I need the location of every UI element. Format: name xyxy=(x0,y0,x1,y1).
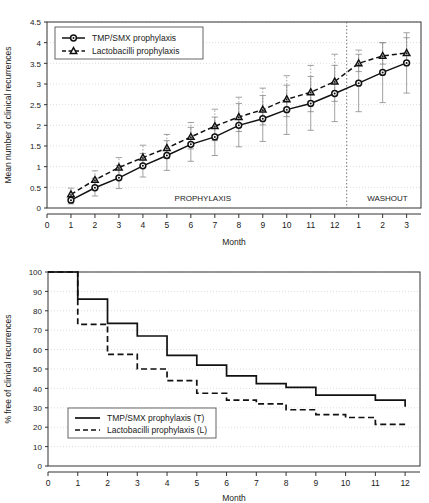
y-tick-label: 3 xyxy=(37,80,42,89)
plot-area-bottom: 01020304050607080901000123456789101112Mo… xyxy=(3,268,420,503)
y-tick-label: 2.5 xyxy=(30,101,42,110)
panel-annotation: WASHOUT xyxy=(367,194,408,203)
y-tick-label: 70 xyxy=(33,326,42,335)
y-tick-label: 2 xyxy=(37,122,42,131)
y-tick-label: 1.5 xyxy=(30,142,42,151)
y-tick-label: 4.5 xyxy=(30,18,42,27)
x-tick-label: 3 xyxy=(117,220,122,230)
marker-circle-dot xyxy=(166,155,168,157)
marker-circle-dot xyxy=(238,124,240,126)
legend-top: TMP/SMX prophylaxisLactobacilli prophyla… xyxy=(55,27,203,59)
chart-panel-percent-free: 01020304050607080901000123456789101112Mo… xyxy=(0,258,429,503)
legend-label-1: Lactobacilli prophylaxis xyxy=(92,46,179,56)
x-tick-label: 9 xyxy=(313,478,318,488)
y-axis-label: Mean number of clinical recurrences xyxy=(3,46,13,183)
y-tick-label: 0.5 xyxy=(30,184,42,193)
y-tick-label: 20 xyxy=(33,423,42,432)
x-tick-label: 10 xyxy=(282,220,292,230)
marker-circle-dot xyxy=(262,118,264,120)
legend-label-0: TMP/SMX prophylaxis xyxy=(92,33,176,43)
y-tick-label: 80 xyxy=(33,307,42,316)
x-tick-label: 12 xyxy=(330,220,340,230)
y-tick-label: 0 xyxy=(38,462,43,471)
x-tick-label: 5 xyxy=(194,478,199,488)
legend-label-0: TMP/SMX prophylaxis (T) xyxy=(107,413,204,423)
x-tick-label: 8 xyxy=(284,478,289,488)
x-tick-label: 8 xyxy=(236,220,241,230)
x-tick-label: 10 xyxy=(341,478,351,488)
marker-circle-dot xyxy=(382,71,384,73)
x-tick-label: 5 xyxy=(165,220,170,230)
mean-recurrences-svg: 00.511.522.533.544.50123456789101112123M… xyxy=(0,0,429,258)
marker-circle-dot xyxy=(406,62,408,64)
y-tick-label: 40 xyxy=(33,385,42,394)
x-tick-label: 2 xyxy=(380,220,385,230)
x-axis-label: Month xyxy=(222,493,246,503)
panel-annotation: PROPHYLAXIS xyxy=(175,194,231,203)
y-tick-label: 50 xyxy=(33,365,42,374)
x-tick-label: 9 xyxy=(260,220,265,230)
legend-marker-circle-dot xyxy=(73,37,75,39)
marker-circle-dot xyxy=(310,102,312,104)
y-tick-label: 4 xyxy=(37,39,42,48)
marker-circle-dot xyxy=(94,187,96,189)
legend-bottom: TMP/SMX prophylaxis (T)Lactobacilli prop… xyxy=(68,408,216,438)
y-tick-label: 10 xyxy=(33,443,42,452)
step-curve-lactobacilli xyxy=(48,272,405,424)
x-tick-label: 1 xyxy=(69,220,74,230)
figure-container: 00.511.522.533.544.50123456789101112123M… xyxy=(0,0,429,503)
y-tick-label: 90 xyxy=(33,288,42,297)
y-axis-label: % free of clinical recurrences xyxy=(3,314,13,423)
plot-area-top: 00.511.522.533.544.50123456789101112123M… xyxy=(3,18,421,247)
y-tick-label: 100 xyxy=(29,268,43,277)
x-tick-label: 7 xyxy=(254,478,259,488)
x-tick-label: 1 xyxy=(75,478,80,488)
y-tick-label: 60 xyxy=(33,346,42,355)
x-tick-label: 7 xyxy=(212,220,217,230)
marker-circle-dot xyxy=(190,143,192,145)
marker-circle-dot xyxy=(118,177,120,179)
x-tick-label: 0 xyxy=(46,478,51,488)
legend-label-1: Lactobacilli prophylaxis (L) xyxy=(107,425,207,435)
marker-circle-dot xyxy=(286,109,288,111)
x-tick-label: 6 xyxy=(224,478,229,488)
chart-panel-mean-recurrences: 00.511.522.533.544.50123456789101112123M… xyxy=(0,0,429,258)
marker-circle-dot xyxy=(70,199,72,201)
x-tick-label: 1 xyxy=(356,220,361,230)
marker-circle-dot xyxy=(214,136,216,138)
y-tick-label: 3.5 xyxy=(30,60,42,69)
x-tick-label: 12 xyxy=(400,478,410,488)
y-tick-label: 1 xyxy=(37,163,42,172)
marker-circle-dot xyxy=(358,82,360,84)
marker-circle-dot xyxy=(334,93,336,95)
step-curve-tmp-smx xyxy=(48,272,405,407)
percent-free-svg: 01020304050607080901000123456789101112Mo… xyxy=(0,258,429,503)
x-axis-label: Month xyxy=(222,237,246,247)
x-tick-label: 3 xyxy=(404,220,409,230)
x-tick-label: 2 xyxy=(93,220,98,230)
y-tick-label: 0 xyxy=(37,204,42,213)
x-tick-label: 11 xyxy=(306,220,315,230)
y-tick-label: 30 xyxy=(33,404,42,413)
x-tick-label: 3 xyxy=(135,478,140,488)
x-tick-label: 2 xyxy=(105,478,110,488)
x-tick-label: 4 xyxy=(165,478,170,488)
marker-circle-dot xyxy=(142,165,144,167)
x-tick-label: 0 xyxy=(45,220,50,230)
x-tick-label: 11 xyxy=(371,478,380,488)
x-tick-label: 4 xyxy=(141,220,146,230)
x-tick-label: 6 xyxy=(188,220,193,230)
